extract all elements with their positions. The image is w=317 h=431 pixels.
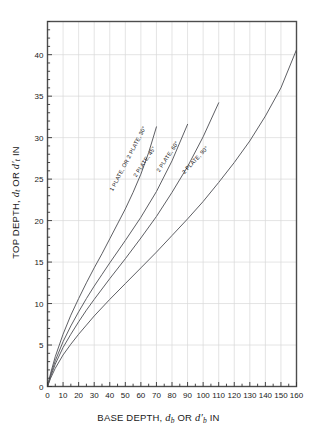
y-axis-title-prefix: TOP DEPTH, bbox=[10, 197, 21, 259]
y-tick-label: 25 bbox=[35, 175, 44, 184]
x-tick-label: 110 bbox=[212, 391, 225, 400]
x-tick-label: 80 bbox=[168, 391, 177, 400]
x-tick-label: 20 bbox=[74, 391, 83, 400]
x-tick-label: 90 bbox=[183, 391, 192, 400]
x-tick-label: 40 bbox=[105, 391, 114, 400]
plot-area: 0102030405060708090100110120130140150160… bbox=[0, 0, 317, 431]
y-tick-label: 0 bbox=[39, 383, 44, 392]
y-axis-title: TOP DEPTH, dt OR d′t IN bbox=[10, 112, 23, 292]
chart-figure: 0102030405060708090100110120130140150160… bbox=[0, 0, 317, 431]
y-axis-var-2: d′ bbox=[10, 161, 21, 169]
x-axis-title-suffix: IN bbox=[207, 412, 220, 423]
x-axis-title: BASE DEPTH, db OR d′b IN bbox=[0, 412, 317, 425]
x-axis-var-2: d′ bbox=[195, 412, 203, 423]
x-tick-label: 70 bbox=[152, 391, 161, 400]
x-tick-label: 50 bbox=[121, 391, 130, 400]
y-axis-sub-1: t bbox=[13, 189, 22, 191]
y-tick-label: 20 bbox=[35, 217, 44, 226]
y-tick-label: 5 bbox=[39, 341, 44, 350]
x-tick-label: 140 bbox=[259, 391, 273, 400]
y-tick-label: 15 bbox=[35, 258, 44, 267]
x-tick-label: 150 bbox=[274, 391, 288, 400]
x-tick-label: 30 bbox=[90, 391, 99, 400]
x-tick-label: 100 bbox=[196, 391, 210, 400]
y-axis-title-suffix: IN bbox=[10, 146, 21, 159]
x-axis-title-mid: OR bbox=[175, 412, 195, 423]
x-tick-label: 130 bbox=[243, 391, 257, 400]
x-tick-label: 0 bbox=[45, 391, 50, 400]
y-tick-label: 40 bbox=[35, 51, 44, 60]
y-axis-title-mid: OR bbox=[10, 169, 21, 189]
y-axis-var-1: d bbox=[10, 192, 21, 197]
y-tick-label: 10 bbox=[35, 300, 44, 309]
x-tick-label: 60 bbox=[136, 391, 145, 400]
y-tick-label: 35 bbox=[35, 92, 44, 101]
y-tick-label: 30 bbox=[35, 134, 44, 143]
gridlines bbox=[48, 22, 297, 387]
x-tick-label: 160 bbox=[290, 391, 304, 400]
x-axis-title-prefix: BASE DEPTH, bbox=[97, 412, 165, 423]
y-axis-sub-2: t bbox=[13, 159, 22, 161]
x-tick-label: 120 bbox=[228, 391, 242, 400]
x-tick-label: 10 bbox=[59, 391, 68, 400]
